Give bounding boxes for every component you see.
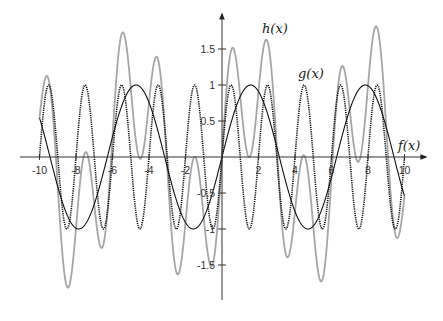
y-tick-label: -1.5 bbox=[197, 259, 215, 271]
x-tick-label: 2 bbox=[256, 164, 262, 176]
x-tick-label: 10 bbox=[399, 164, 411, 176]
y-tick-label: 1.5 bbox=[200, 43, 215, 55]
x-tick-label: -6 bbox=[108, 164, 117, 176]
h-series-label: h(x) bbox=[262, 21, 288, 36]
y-tick-label: -1 bbox=[206, 223, 215, 235]
y-tick-label: 0.5 bbox=[200, 115, 215, 127]
x-tick-label: -10 bbox=[32, 164, 47, 176]
y-tick-label: 1 bbox=[209, 79, 215, 91]
x-tick-label: 6 bbox=[329, 164, 335, 176]
chart: -10-8-6-4-2246810 1.510.5-0.5-1-1.5 h(x)… bbox=[0, 0, 443, 321]
x-tick-label: -2 bbox=[181, 164, 190, 176]
x-tick-label: 8 bbox=[365, 164, 371, 176]
x-tick-label: -8 bbox=[71, 164, 80, 176]
y-tick-label: -0.5 bbox=[197, 187, 215, 199]
f-series-label: f(x) bbox=[397, 138, 420, 153]
x-tick-label: 4 bbox=[292, 164, 298, 176]
x-tick-label: -4 bbox=[144, 164, 153, 176]
g-series-label: g(x) bbox=[298, 66, 324, 81]
